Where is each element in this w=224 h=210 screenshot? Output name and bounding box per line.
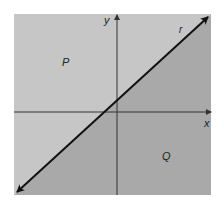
x-axis-label: x — [203, 117, 210, 129]
region-q-label: Q — [162, 150, 171, 162]
region-p-label: P — [62, 56, 70, 68]
coordinate-plane-diagram: y x r P Q — [0, 0, 224, 210]
